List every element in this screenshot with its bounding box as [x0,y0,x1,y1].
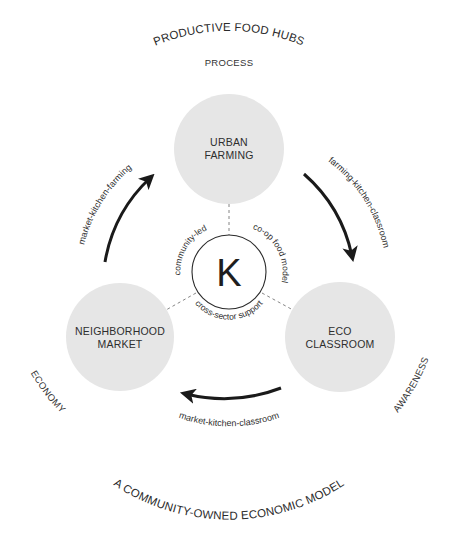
urban-farming-label-line1: URBAN [210,136,248,148]
food-hub-diagram: URBAN FARMING NEIGHBORHOOD MARKET ECO CL… [0,0,457,544]
core-hub: K community-led co-op food model cross-s… [172,221,291,321]
k-logo-icon: K [216,252,241,294]
eco-classroom-label-line2: CLASSROOM [306,338,375,350]
theme-awareness: AWARENESS [391,355,431,414]
eco-classroom-circle [285,282,395,392]
urban-farming-label-line2: FARMING [204,149,253,161]
diagram-canvas: URBAN FARMING NEIGHBORHOOD MARKET ECO CL… [0,0,457,544]
flow-label-bottom: market-kitchen-classroom [178,410,280,428]
node-eco-classroom: ECO CLASSROOM [285,282,395,392]
neighborhood-market-label-line1: NEIGHBORHOOD [75,325,165,337]
node-neighborhood-market: NEIGHBORHOOD MARKET [66,283,174,391]
node-urban-farming: URBAN FARMING [174,94,284,204]
neighborhood-market-circle [66,283,174,391]
arrow-classroom-to-market-icon [186,388,281,399]
eco-classroom-label-line1: ECO [328,325,351,337]
arrow-farming-to-classroom-icon [304,174,352,256]
title-bottom: A COMMUNITY-OWNED ECONOMIC MODEL [112,476,346,522]
connector-to-eco-classroom [262,293,293,310]
theme-process: PROCESS [205,57,254,68]
flow-label-left: market-kitchen-farming [76,162,133,246]
title-top: PRODUCTIVE FOOD HUBS [152,21,307,48]
flow-label-right: farming-kitchen-classroom [327,155,392,249]
neighborhood-market-label-line2: MARKET [98,338,143,350]
connector-to-neighborhood-market [166,293,196,310]
theme-economy: ECONOMY [29,368,69,415]
